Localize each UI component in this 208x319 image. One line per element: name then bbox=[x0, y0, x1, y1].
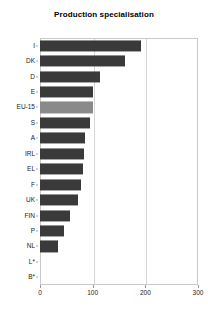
bar-row bbox=[40, 162, 198, 177]
category-tick bbox=[36, 215, 38, 216]
value-tick-label-100: 100 bbox=[87, 290, 98, 297]
category-tick bbox=[36, 153, 38, 154]
category-label-e: E bbox=[31, 89, 35, 96]
category-label-row: UK bbox=[0, 192, 38, 207]
bar-a bbox=[40, 133, 85, 144]
bar-uk bbox=[40, 195, 78, 206]
bar-i bbox=[40, 40, 141, 51]
value-axis: 0100200300 bbox=[40, 285, 198, 305]
category-tick bbox=[36, 200, 38, 201]
category-tick bbox=[36, 230, 38, 231]
bar-row bbox=[40, 38, 198, 53]
bar-d bbox=[40, 71, 100, 82]
value-tick-label-300: 300 bbox=[193, 290, 204, 297]
category-label-dk: DK bbox=[26, 58, 35, 65]
bar-row bbox=[40, 100, 198, 115]
category-tick bbox=[36, 261, 38, 262]
bar-e bbox=[40, 86, 93, 97]
category-tick bbox=[36, 92, 38, 93]
category-tick bbox=[36, 277, 38, 278]
category-label-row: S bbox=[0, 115, 38, 130]
category-label-lx: L* bbox=[29, 259, 35, 266]
category-label-d: D bbox=[30, 73, 35, 80]
category-label-row: F bbox=[0, 177, 38, 192]
bar-p bbox=[40, 225, 64, 236]
bar-row bbox=[40, 223, 198, 238]
value-tick bbox=[198, 285, 199, 288]
category-label-row: L* bbox=[0, 254, 38, 269]
bar-dk bbox=[40, 56, 125, 67]
category-label-nl: NL bbox=[27, 243, 35, 250]
category-label-row: A bbox=[0, 131, 38, 146]
bar-row bbox=[40, 208, 198, 223]
bar-row bbox=[40, 270, 198, 285]
bar-row bbox=[40, 69, 198, 84]
category-label-fin: FIN bbox=[25, 212, 35, 219]
bar-f bbox=[40, 179, 81, 190]
category-label-bx: B* bbox=[28, 274, 35, 281]
category-tick bbox=[36, 45, 38, 46]
bar-row bbox=[40, 254, 198, 269]
bar-row bbox=[40, 177, 198, 192]
chart-title: Production specialisation bbox=[0, 10, 208, 19]
production-specialisation-chart: Production specialisation IDKDEEU-15SAIR… bbox=[0, 0, 208, 319]
value-tick-label-200: 200 bbox=[140, 290, 151, 297]
category-label-row: EU-15 bbox=[0, 100, 38, 115]
value-tick bbox=[93, 285, 94, 288]
category-label-p: P bbox=[31, 228, 35, 235]
category-label-eu-15: EU-15 bbox=[17, 104, 35, 111]
bar-row bbox=[40, 239, 198, 254]
category-tick bbox=[36, 76, 38, 77]
category-label-s: S bbox=[31, 120, 35, 127]
bar-s bbox=[40, 117, 90, 128]
bar-row bbox=[40, 53, 198, 68]
category-axis-labels: IDKDEEU-15SAIRLELFUKFINPNLL*B* bbox=[0, 38, 38, 285]
bar-row bbox=[40, 146, 198, 161]
category-label-row: E bbox=[0, 84, 38, 99]
category-label-row: NL bbox=[0, 239, 38, 254]
category-label-uk: UK bbox=[26, 197, 35, 204]
category-tick bbox=[36, 138, 38, 139]
bar-eu-15 bbox=[40, 102, 93, 113]
bar-row bbox=[40, 192, 198, 207]
category-tick bbox=[36, 61, 38, 62]
category-label-row: D bbox=[0, 69, 38, 84]
category-label-row: DK bbox=[0, 53, 38, 68]
category-label-el: EL bbox=[27, 166, 35, 173]
category-label-f: F bbox=[31, 181, 35, 188]
category-tick bbox=[36, 184, 38, 185]
bar-row bbox=[40, 84, 198, 99]
category-label-row: P bbox=[0, 223, 38, 238]
category-label-row: B* bbox=[0, 270, 38, 285]
bar-fin bbox=[40, 210, 70, 221]
category-label-row: I bbox=[0, 38, 38, 53]
bar-row bbox=[40, 131, 198, 146]
value-tick bbox=[40, 285, 41, 288]
bars-layer bbox=[40, 38, 198, 285]
bar-nl bbox=[40, 241, 58, 252]
category-label-row: IRL bbox=[0, 146, 38, 161]
category-label-row: FIN bbox=[0, 208, 38, 223]
category-label-a: A bbox=[31, 135, 35, 142]
category-label-i: I bbox=[33, 42, 35, 49]
category-tick bbox=[36, 122, 38, 123]
category-label-irl: IRL bbox=[25, 151, 35, 158]
category-tick bbox=[36, 107, 38, 108]
category-tick bbox=[36, 246, 38, 247]
category-label-row: EL bbox=[0, 162, 38, 177]
value-tick-label-0: 0 bbox=[38, 290, 42, 297]
bar-row bbox=[40, 115, 198, 130]
category-tick bbox=[36, 169, 38, 170]
bar-irl bbox=[40, 148, 84, 159]
bar-el bbox=[40, 164, 83, 175]
value-tick bbox=[145, 285, 146, 288]
